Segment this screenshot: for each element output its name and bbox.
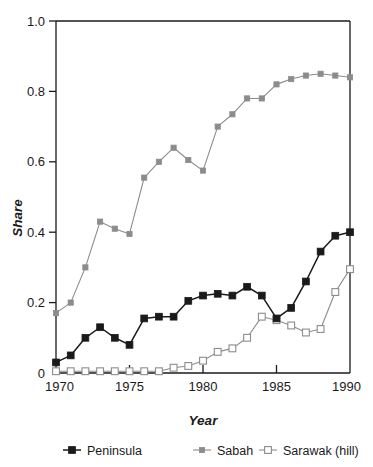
y-axis-tick-labels: 00.20.40.60.81.0 <box>27 14 45 381</box>
data-point <box>141 315 148 322</box>
data-point <box>112 226 117 231</box>
x-axis-tick-labels: 19701975198019851990 <box>45 379 361 394</box>
y-tick-label: 0.8 <box>27 84 45 99</box>
x-tick-label: 1970 <box>45 379 74 394</box>
data-point <box>214 290 221 297</box>
data-point <box>258 313 265 320</box>
data-point <box>170 313 177 320</box>
data-point <box>244 283 251 290</box>
data-point <box>303 278 310 285</box>
data-point <box>185 297 192 304</box>
series-line <box>56 74 350 313</box>
data-point <box>258 292 265 299</box>
data-point <box>259 96 264 101</box>
data-point <box>303 73 308 78</box>
data-point <box>156 368 163 375</box>
data-point <box>200 292 207 299</box>
data-point <box>347 229 354 236</box>
x-axis-ticks <box>130 365 277 373</box>
series-layer <box>53 71 354 374</box>
data-point <box>244 334 251 341</box>
legend-item-sabah[interactable]: Sabah <box>193 444 253 458</box>
x-axis-title: Year <box>189 413 219 428</box>
data-point <box>289 76 294 81</box>
x-tick-label: 1975 <box>115 379 144 394</box>
data-point <box>288 304 295 311</box>
data-point <box>288 322 295 329</box>
data-point <box>53 359 60 366</box>
data-point <box>317 248 324 255</box>
y-tick-label: 0 <box>38 366 45 381</box>
data-point <box>200 357 207 364</box>
chart-figure: 00.20.40.60.81.0 19701975198019851990 Sh… <box>0 0 373 467</box>
data-point <box>245 96 250 101</box>
data-point <box>68 300 73 305</box>
data-point <box>126 341 133 348</box>
data-point <box>274 82 279 87</box>
x-tick-label: 1990 <box>332 379 361 394</box>
data-point <box>332 232 339 239</box>
data-point <box>53 311 58 316</box>
data-point <box>53 368 60 375</box>
data-point <box>97 324 104 331</box>
y-tick-label: 0.6 <box>27 154 45 169</box>
data-point <box>97 368 104 375</box>
data-point <box>98 219 103 224</box>
data-point <box>333 73 338 78</box>
legend-marker <box>199 447 204 452</box>
data-point <box>127 231 132 236</box>
series-peninsula <box>53 229 354 366</box>
data-point <box>126 368 133 375</box>
data-point <box>83 265 88 270</box>
y-tick-label: 1.0 <box>27 14 45 29</box>
data-point <box>141 368 148 375</box>
data-point <box>230 112 235 117</box>
data-point <box>215 124 220 129</box>
legend-label: Peninsula <box>87 444 142 458</box>
data-point <box>214 348 221 355</box>
y-tick-label: 0.4 <box>27 225 45 240</box>
legend-marker <box>69 447 76 454</box>
y-axis-title: Share <box>10 199 25 237</box>
data-point <box>82 368 89 375</box>
chart-legend: PeninsulaSabahSarawak (hill) <box>63 444 359 458</box>
legend-label: Sabah <box>217 444 253 458</box>
x-tick-label: 1980 <box>189 379 218 394</box>
data-point <box>111 368 118 375</box>
data-point <box>185 363 192 370</box>
data-point <box>229 292 236 299</box>
legend-item-peninsula[interactable]: Peninsula <box>63 444 142 458</box>
x-tick-label: 1985 <box>262 379 291 394</box>
data-point <box>67 368 74 375</box>
data-point <box>317 326 324 333</box>
data-point <box>156 313 163 320</box>
data-point <box>67 352 74 359</box>
data-point <box>318 71 323 76</box>
data-point <box>170 364 177 371</box>
data-point <box>186 157 191 162</box>
data-point <box>347 266 354 273</box>
data-point <box>171 145 176 150</box>
legend-marker <box>265 447 272 454</box>
data-point <box>142 175 147 180</box>
data-point <box>332 289 339 296</box>
data-point <box>111 334 118 341</box>
data-point <box>82 334 89 341</box>
data-point <box>156 159 161 164</box>
data-point <box>303 329 310 336</box>
y-tick-label: 0.2 <box>27 295 45 310</box>
data-point <box>200 168 205 173</box>
y-axis-ticks <box>49 21 56 303</box>
legend-item-sarawak-hill[interactable]: Sarawak (hill) <box>259 444 359 458</box>
data-point <box>229 345 236 352</box>
data-point <box>347 75 352 80</box>
legend-label: Sarawak (hill) <box>283 444 359 458</box>
share-by-region-line-chart: 00.20.40.60.81.0 19701975198019851990 Sh… <box>0 0 373 467</box>
data-point <box>273 315 280 322</box>
